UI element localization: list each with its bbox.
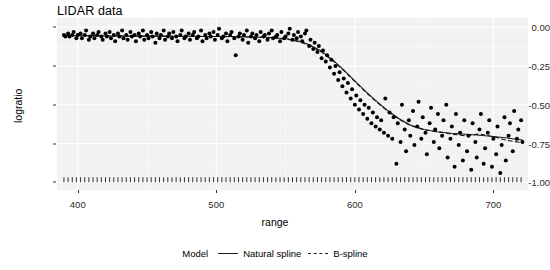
y-tick-mark: [53, 66, 56, 67]
lidar-chart: LIDAR data logratio 0.00-0.25-0.50-0.75-…: [0, 0, 550, 270]
plot-panel: [57, 18, 528, 190]
legend: Model Natural spline B-spline: [0, 243, 550, 263]
legend-item-natural-spline[interactable]: Natural spline: [218, 248, 301, 259]
y-tick-mark: [53, 104, 56, 105]
x-tick-label: 600: [347, 199, 363, 210]
x-tick-label: 700: [485, 199, 501, 210]
x-tick-mark: [216, 190, 217, 193]
legend-label-natural-spline: Natural spline: [243, 248, 301, 259]
legend-title: Model: [182, 248, 208, 259]
page-title: LIDAR data: [57, 4, 123, 18]
plot-canvas: [57, 18, 528, 190]
y-tick-mark: [53, 27, 56, 28]
data-points: [62, 27, 525, 175]
legend-item-b-spline[interactable]: B-spline: [308, 248, 367, 259]
legend-line-solid-icon: [218, 248, 238, 258]
x-tick-mark: [78, 190, 79, 193]
gridlines: [57, 18, 528, 190]
y-tick-mark: [53, 182, 56, 183]
x-tick-mark: [493, 190, 494, 193]
rug-marks: [64, 177, 521, 182]
y-tick-mark: [53, 143, 56, 144]
x-tick-label: 400: [70, 199, 86, 210]
legend-label-b-spline: B-spline: [333, 248, 367, 259]
x-tick-label: 500: [208, 199, 224, 210]
x-axis-title: range: [0, 216, 550, 228]
legend-line-dashed-icon: [308, 248, 328, 258]
x-tick-mark: [355, 190, 356, 193]
y-axis-title: logratio: [12, 109, 24, 123]
